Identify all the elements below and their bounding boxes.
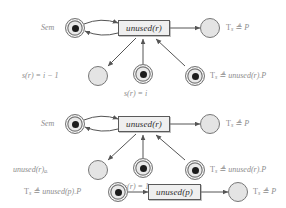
thread-place-3-sub: s [29, 190, 31, 196]
arc-transition-to-sem-1 [85, 31, 118, 35]
transition-unused-p[interactable]: unused(p) [148, 184, 201, 200]
arc-transition-to-sem-2 [85, 127, 118, 131]
arc-thread-to-transition-1 [156, 39, 185, 66]
thread-place-2-label: Ts ≜ unused(r).P [210, 166, 266, 174]
unused-ai-sub: aᵢ [44, 168, 48, 174]
sr-place-2[interactable] [133, 158, 153, 178]
result-place-3-label: Ts ≜ P [253, 188, 276, 196]
arc-sem-to-transition-1 [84, 20, 118, 24]
thread-place-1-sub: s [215, 74, 217, 80]
transition-unused-r-2[interactable]: unused(r) [118, 116, 170, 132]
result-place-1-label: Ts ≜ P [226, 24, 249, 32]
result-place-2-tail: ≜ P [235, 119, 249, 128]
sem-place-1[interactable] [65, 18, 85, 38]
arc-thread-to-transition-2 [156, 135, 185, 160]
thread-place-3-tail: ≜ unused(p).P [33, 187, 81, 196]
thread-place-2-sub: s [215, 168, 217, 174]
sr-place-1-label: s(r) = i [124, 90, 147, 98]
thread-place-3[interactable] [108, 182, 128, 202]
result-place-2[interactable] [200, 114, 220, 134]
sr-place-1[interactable] [133, 64, 153, 84]
result-place-3-sub: s [258, 190, 260, 196]
thread-place-1-label: Ts ≜ unused(r).P [210, 72, 266, 80]
unused-ai-head: unused(r) [13, 165, 44, 174]
petri-net-diagram: Sem unused(r) Ts ≜ P s(r) = i − 1 s(r) =… [0, 0, 286, 208]
arc-transition-to-unused-ai [108, 134, 136, 160]
unused-ai-place[interactable] [88, 160, 108, 180]
transition-unused-r-1[interactable]: unused(r) [118, 20, 170, 36]
arc-transition-to-sr-minus-1 [108, 38, 136, 66]
sr-minus-place-1-label: s(r) = i − 1 [22, 72, 59, 80]
thread-place-2[interactable] [185, 160, 205, 180]
result-place-1-sub: s [231, 26, 233, 32]
unused-ai-place-label: unused(r)aᵢ [13, 166, 48, 174]
result-place-2-label: Ts ≜ P [226, 120, 249, 128]
sr-minus-place-1[interactable] [88, 66, 108, 86]
result-place-2-sub: s [231, 122, 233, 128]
thread-place-1-tail: ≜ unused(r).P [219, 71, 266, 80]
result-place-3[interactable] [228, 182, 248, 202]
sem-place-1-label: Sem [41, 24, 54, 32]
result-place-1-tail: ≜ P [235, 23, 249, 32]
thread-place-2-tail: ≜ unused(r).P [219, 165, 266, 174]
sem-place-2[interactable] [65, 114, 85, 134]
thread-place-3-label: Ts ≜ unused(p).P [24, 188, 81, 196]
thread-place-1[interactable] [185, 66, 205, 86]
result-place-3-tail: ≜ P [262, 187, 276, 196]
sem-place-2-label: Sem [41, 120, 54, 128]
result-place-1[interactable] [200, 18, 220, 38]
arc-sem-to-transition-2 [84, 116, 118, 120]
